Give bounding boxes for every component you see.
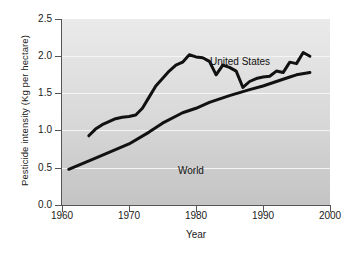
y-tick-label-0-0: 0.0 — [12, 199, 52, 210]
y-tick-label-1-0: 1.0 — [12, 124, 52, 135]
series-label-united-states: United States — [210, 56, 270, 67]
y-axis-title: Pesticide intensity (Kg per hectare) — [19, 11, 30, 211]
pesticide-intensity-chart: Pesticide intensity (Kg per hectare) 2.5… — [0, 0, 352, 255]
line-series-united-states — [89, 52, 310, 135]
plot-area: United States World — [62, 19, 330, 205]
y-axis-line — [61, 19, 62, 206]
line-series-world — [69, 73, 310, 170]
x-tick-label-1960: 1960 — [36, 210, 88, 221]
x-axis-title: Year — [62, 229, 330, 240]
y-tick-label-1-5: 1.5 — [12, 87, 52, 98]
y-tick-label-2-5: 2.5 — [12, 13, 52, 24]
x-tick-label-1980: 1980 — [170, 210, 222, 221]
x-tick-label-1990: 1990 — [237, 210, 289, 221]
x-tick-label-2000: 2000 — [304, 210, 352, 221]
series-lines — [62, 19, 330, 205]
y-tick-label-2-0: 2.0 — [12, 50, 52, 61]
series-label-world: World — [178, 165, 204, 176]
x-tick-label-1970: 1970 — [103, 210, 155, 221]
y-tick-label-0-5: 0.5 — [12, 162, 52, 173]
